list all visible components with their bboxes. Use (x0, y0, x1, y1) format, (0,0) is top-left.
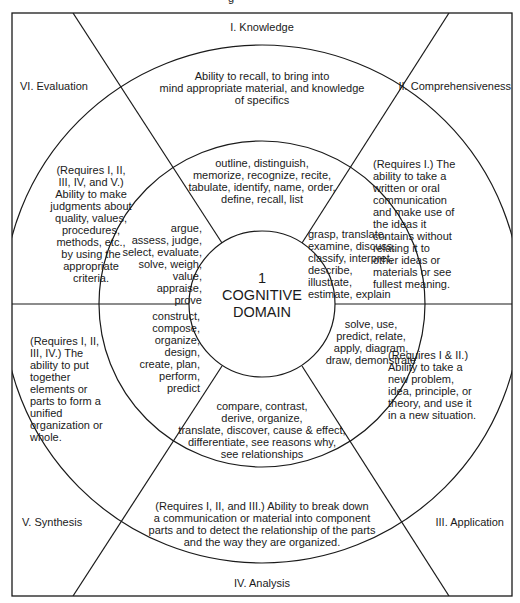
header-fragment: g (228, 0, 234, 4)
description-analysis: (Requires I, II, and III.) Ability to br… (132, 500, 392, 548)
level-label-evaluation: VI. Evaluation (20, 80, 88, 92)
level-label-comprehensiveness: II. Comprehensiveness (380, 80, 511, 92)
verbs-knowledge: outline, distinguish, memorize, recogniz… (182, 157, 342, 205)
level-label-application: III. Application (400, 516, 504, 528)
verbs-application: solve, use, predict, relate, apply, diag… (316, 318, 426, 366)
verbs-synthesis: construct, compose, organize, design, cr… (110, 310, 200, 394)
level-label-synthesis: V. Synthesis (22, 516, 82, 528)
center-number: 1 (242, 270, 282, 287)
center-title: COGNITIVE DOMAIN (202, 287, 322, 321)
description-knowledge: Ability to recall, to bring into mind ap… (142, 70, 382, 106)
verbs-analysis: compare, contrast, derive, organize, tra… (167, 400, 357, 460)
verbs-evaluation: argue, assess, judge, select, evaluate, … (110, 222, 202, 306)
level-label-knowledge: I. Knowledge (212, 21, 312, 33)
verbs-comprehensiveness: grasp, translate, examine, discuss, clas… (308, 228, 428, 300)
level-label-analysis: IV. Analysis (212, 577, 312, 589)
